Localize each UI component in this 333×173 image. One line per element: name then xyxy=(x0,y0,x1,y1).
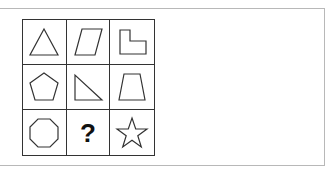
shape-grid: ? xyxy=(22,19,155,156)
cell-r2c1 xyxy=(23,65,67,110)
cell-r2c3 xyxy=(110,65,154,110)
parallelogram-icon xyxy=(71,25,105,59)
cell-r1c2 xyxy=(67,20,111,65)
trapezoid-icon xyxy=(115,70,149,104)
octagon-icon xyxy=(27,116,61,150)
missing-shape-question-mark: ? xyxy=(80,120,96,146)
cell-r3c1 xyxy=(23,110,67,155)
star-icon xyxy=(115,116,149,150)
right-triangle-icon xyxy=(71,70,105,104)
l-shape-icon xyxy=(115,25,149,59)
triangle-icon xyxy=(27,25,61,59)
cell-r2c2 xyxy=(67,65,111,110)
cell-r1c1 xyxy=(23,20,67,65)
cell-r3c3 xyxy=(110,110,154,155)
pentagon-icon xyxy=(27,70,61,104)
cell-r1c3 xyxy=(110,20,154,65)
cell-r3c2: ? xyxy=(67,110,111,155)
